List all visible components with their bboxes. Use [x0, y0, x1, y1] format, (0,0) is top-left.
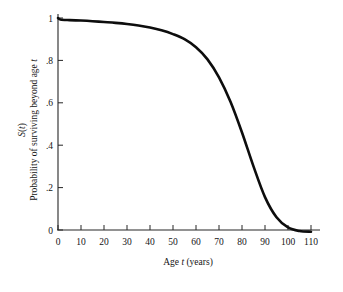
x-axis-title-part-2: (years)	[184, 257, 213, 268]
y-tick-label: .8	[46, 56, 53, 66]
x-tick-label: 10	[76, 237, 86, 247]
chart-canvas: 1 .8 .6 .4 .2 0 010203040506070809010011…	[0, 0, 343, 292]
x-tick-label: 60	[191, 237, 201, 247]
y-axis-symbol-paren-close: )	[17, 123, 28, 126]
x-tick-label: 50	[168, 237, 178, 247]
x-tick-label: 20	[99, 237, 109, 247]
y-axis-title: Probability of surviving beyond age t	[29, 59, 39, 201]
x-tick-label: 40	[145, 237, 155, 247]
x-axis-title-part-1: Age	[163, 257, 181, 267]
x-tick-label: 70	[214, 237, 224, 247]
y-tick-label: 1	[48, 14, 53, 24]
y-axis-ticks	[58, 18, 63, 230]
y-axis-symbol-label: S(t)	[17, 123, 28, 137]
survival-curve-figure: 1 .8 .6 .4 .2 0 010203040506070809010011…	[0, 0, 343, 292]
y-tick-label: .4	[46, 141, 53, 151]
y-tick-label: .2	[46, 183, 53, 193]
y-axis-tick-labels: 1 .8 .6 .4 .2 0	[46, 14, 53, 236]
survival-curve-line	[58, 18, 311, 232]
x-tick-label: 30	[122, 237, 132, 247]
x-tick-label: 80	[237, 237, 247, 247]
x-tick-label: 100	[281, 237, 296, 247]
y-tick-label: .6	[46, 98, 53, 108]
x-tick-label: 90	[260, 237, 270, 247]
y-tick-label: 0	[48, 226, 53, 236]
x-axis-title: Age t (years)	[163, 257, 213, 268]
y-axis-title-part-1: Probability of surviving beyond age	[29, 62, 39, 201]
x-tick-label: 110	[304, 237, 318, 247]
x-axis-tick-labels: 0102030405060708090100110	[56, 237, 319, 247]
y-axis-title-variable: t	[29, 59, 39, 62]
x-tick-label: 0	[56, 237, 61, 247]
x-axis-ticks	[58, 225, 311, 230]
